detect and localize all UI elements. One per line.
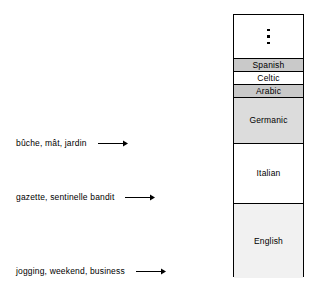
stratum-germanic: Germanic xyxy=(234,98,303,144)
stratum-ellipsis xyxy=(234,15,303,59)
stratum-label: Germanic xyxy=(249,116,287,125)
strata-column: Spanish Celtic Arabic Germanic Italian E… xyxy=(233,14,304,277)
stratum-italian: Italian xyxy=(234,144,303,204)
annotation-row: gazette, sentinelle bandit xyxy=(16,193,155,202)
stratum-spanish: Spanish xyxy=(234,59,303,72)
vertical-ellipsis-icon xyxy=(267,29,270,45)
stratum-label: English xyxy=(254,237,283,246)
arrow-right-icon xyxy=(98,139,128,148)
annotation-label: bûche, mât, jardin xyxy=(16,139,87,148)
stratum-label: Arabic xyxy=(256,87,281,96)
annotation-label: gazette, sentinelle bandit xyxy=(16,193,114,202)
stratum-label: Italian xyxy=(257,169,281,178)
annotation-row: jogging, weekend, business xyxy=(16,267,166,276)
stratum-label: Celtic xyxy=(257,74,279,83)
annotation-row: bûche, mât, jardin xyxy=(16,139,128,148)
strata-diagram: bûche, mât, jardin gazette, sentinelle b… xyxy=(0,0,321,293)
annotation-label: jogging, weekend, business xyxy=(16,267,125,276)
stratum-label: Spanish xyxy=(253,61,285,70)
stratum-english: English xyxy=(234,204,303,278)
arrow-right-icon xyxy=(125,193,155,202)
stratum-arabic: Arabic xyxy=(234,85,303,98)
arrow-right-icon xyxy=(136,267,166,276)
stratum-celtic: Celtic xyxy=(234,72,303,85)
